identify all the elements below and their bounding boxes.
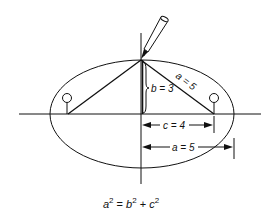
pythagorean-formula: a2 = b2 + c2 bbox=[0, 196, 262, 210]
formula-exp-c: 2 bbox=[155, 196, 159, 205]
pencil-icon bbox=[141, 15, 169, 59]
label-b: b = 3 bbox=[151, 83, 174, 94]
b-brace bbox=[143, 62, 149, 113]
formula-equals: = bbox=[113, 198, 126, 210]
string-left bbox=[68, 60, 141, 114]
label-a-horizontal: a = 5 bbox=[172, 142, 195, 153]
formula-plus: + bbox=[137, 198, 150, 210]
left-pin-icon bbox=[63, 94, 72, 115]
label-c: c = 4 bbox=[163, 120, 185, 131]
label-a-slant: a = 5 bbox=[174, 70, 199, 93]
ellipse-diagram: b = 3 a = 5 c = 4 a = 5 bbox=[0, 0, 262, 219]
